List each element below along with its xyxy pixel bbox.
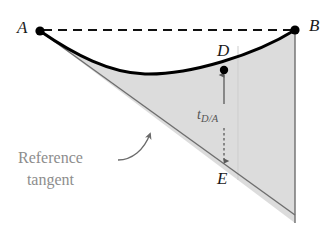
point-marker-d [220, 66, 228, 74]
point-label-a: A [17, 19, 27, 36]
figure-canvas [0, 0, 333, 229]
point-label-d: D [217, 42, 229, 59]
reference-tangent-label: Reference tangent [18, 147, 83, 190]
point-marker-a [35, 26, 44, 35]
deviation-subscript: D/A [201, 113, 219, 124]
beam-deflection-figure: A B D E tD/A Reference tangent [0, 0, 333, 229]
reference-label-line-2: tangent [18, 169, 83, 191]
point-marker-b [290, 25, 299, 34]
reference-label-line-1: Reference [18, 147, 83, 169]
tangential-deviation-label: tD/A [197, 108, 218, 125]
point-label-b: B [309, 17, 319, 34]
reference-tangent-leader-arrow [118, 134, 150, 160]
point-label-e: E [217, 170, 227, 187]
